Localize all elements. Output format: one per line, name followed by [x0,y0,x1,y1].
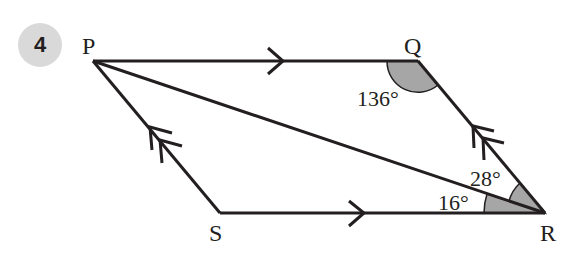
angle-label-prq: 28° [470,168,501,190]
vertex-label-r: R [540,221,556,245]
angle-label-q: 136° [357,88,399,110]
vertex-label-q: Q [404,34,421,58]
vertex-label-s: S [209,221,222,245]
angle-label-prs: 16° [438,192,469,214]
parallel-double-arrow-sp-icon [150,127,182,163]
vertex-label-p: P [82,34,95,58]
